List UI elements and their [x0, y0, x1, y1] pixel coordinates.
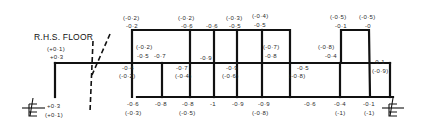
label: (-0·9)	[372, 68, 388, 75]
label: (-0·8)	[318, 44, 334, 51]
label: (-0·7)	[263, 44, 279, 51]
label: -0·4	[334, 101, 346, 108]
label: -0·5	[297, 65, 309, 72]
label: -0·7	[176, 65, 188, 72]
label: -0·1	[363, 101, 375, 108]
label: -0·1	[373, 59, 385, 66]
label: +0·3	[47, 103, 60, 110]
label: (-0·2)	[123, 15, 139, 22]
label: (+0·1)	[45, 112, 63, 119]
label: (-0·4)	[175, 73, 191, 80]
floor-coefficient-diagram: R.H.S. FLOOR (+0·1) +0·3 +0·3 (+0·1) (-0…	[0, 0, 426, 125]
label: -0·8	[182, 101, 194, 108]
label: (-0·4)	[252, 13, 268, 20]
label: -0·5	[229, 23, 241, 30]
label: (-0·2)	[136, 44, 152, 51]
floor-title: R.H.S. FLOOR	[34, 32, 93, 42]
label: -0·7	[154, 53, 166, 60]
label: -0·9	[200, 55, 212, 62]
label: (-1)	[335, 110, 346, 117]
label: -0·8	[265, 53, 277, 60]
label: -0·8	[155, 101, 167, 108]
label: -0·6	[127, 101, 139, 108]
label: (-0·3)	[125, 110, 141, 117]
label: -0	[365, 23, 371, 30]
label: (-0·6)	[222, 73, 238, 80]
label: (-0·2)	[178, 15, 194, 22]
label: -0·5	[137, 53, 149, 60]
label: -0·2	[126, 23, 138, 30]
label: (-0·5)	[359, 14, 375, 21]
label: (-0·3)	[226, 15, 242, 22]
label: (-0·8)	[289, 73, 305, 80]
label: -0·9	[232, 101, 244, 108]
label: (+0·1)	[47, 46, 65, 53]
label: -0·4	[122, 65, 134, 72]
label: -0·6	[304, 101, 316, 108]
label: (-1)	[364, 110, 375, 117]
label: (-0·5)	[179, 110, 195, 117]
label: -0·5	[254, 22, 266, 29]
floor-marker-diagonal	[92, 34, 110, 75]
label: (-0·5)	[330, 14, 346, 21]
label: -0·1	[335, 23, 347, 30]
label: -0·9	[226, 65, 238, 72]
label: +0·3	[50, 54, 63, 61]
label: -0·6	[181, 23, 193, 30]
label: -0·6	[206, 23, 218, 30]
right-centerline-icon	[382, 98, 404, 116]
label: -0·4	[325, 53, 337, 60]
floor-marker-vertical	[90, 41, 93, 112]
left-centerline-icon	[22, 98, 45, 116]
label: (-0·2)	[119, 73, 135, 80]
label: -1	[210, 101, 216, 108]
label: (-0·8)	[252, 110, 268, 117]
label: -0·9	[258, 101, 270, 108]
